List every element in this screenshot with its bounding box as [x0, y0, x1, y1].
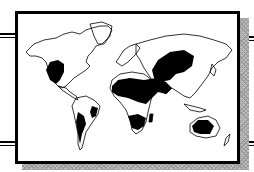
region-australia — [192, 120, 214, 134]
region-north-america-southwest — [46, 60, 64, 84]
north-america-outline — [26, 26, 112, 88]
right-rule-bottom — [249, 141, 254, 146]
right-rule-top — [249, 36, 254, 41]
japan-outline — [210, 64, 216, 76]
indonesia-outline — [184, 104, 206, 112]
left-rule-top — [0, 33, 16, 38]
left-rule-bottom — [0, 141, 16, 146]
region-sahara-arabia — [112, 78, 172, 104]
world-map — [18, 14, 237, 161]
region-central-asia — [152, 50, 194, 82]
central-america-outline — [58, 86, 78, 100]
map-frame — [15, 11, 240, 164]
madagascar-outline — [149, 114, 153, 122]
greenland-outline — [90, 22, 112, 44]
new-zealand-outline — [224, 134, 230, 146]
